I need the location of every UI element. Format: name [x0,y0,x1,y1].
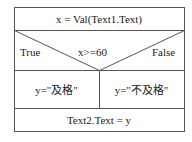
false-label: False [152,46,175,58]
false-branch-statement: y="不及格" [99,84,184,96]
true-label: True [20,46,40,58]
condition-text: x>=60 [78,46,107,58]
true-branch-statement: y="及格" [14,84,99,96]
statement-bottom: Text2.Text = y [14,114,184,126]
outer-frame [15,8,185,132]
statement-top: x = Val(Text1.Text) [14,13,184,25]
